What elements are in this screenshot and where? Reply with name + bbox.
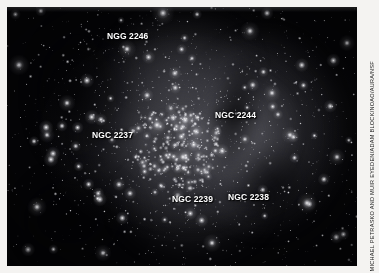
photo-credit-text: MICHAEL PETRASKO AND MUIR EYEDEN/ADAM BL… <box>369 61 375 271</box>
astrophoto-figure: NGG 2246NGC 2244NGC 2237NGC 2239NGC 2238… <box>0 0 379 273</box>
photo-credit: MICHAEL PETRASKO AND MUIR EYEDEN/ADAM BL… <box>366 0 378 273</box>
photo-plate <box>7 7 357 266</box>
star-field <box>7 7 357 266</box>
